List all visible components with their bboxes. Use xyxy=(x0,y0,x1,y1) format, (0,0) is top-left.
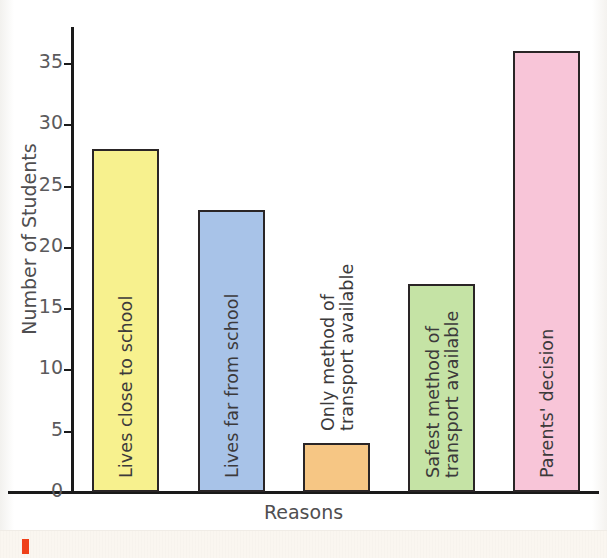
bar-label-line: transport available xyxy=(443,311,462,478)
red-mark xyxy=(22,539,29,554)
y-tick-label: 5 xyxy=(17,418,63,440)
y-tick-mark xyxy=(64,63,73,65)
y-tick-mark xyxy=(64,186,73,188)
y-tick-mark xyxy=(64,124,73,126)
bar-label-line: transport available xyxy=(338,264,357,431)
bar-label: Lives far from school xyxy=(223,293,243,478)
page-bottom-strip xyxy=(0,530,607,558)
y-tick-label: 10 xyxy=(17,356,63,378)
y-axis-title: Number of Students xyxy=(18,124,40,354)
bar-label: Only method oftransport available xyxy=(319,264,358,431)
bar-label-line: Lives close to school xyxy=(117,296,137,478)
y-tick-mark xyxy=(64,431,73,433)
y-tick-mark xyxy=(64,247,73,249)
chart-title xyxy=(0,0,607,2)
bar-label-line: Lives far from school xyxy=(223,293,243,478)
y-tick-mark xyxy=(64,369,73,371)
bar-label: Lives close to school xyxy=(117,296,137,478)
y-axis-line xyxy=(71,27,74,493)
bar-label-line: Parents' decision xyxy=(538,329,558,478)
bar-label-line: Only method of xyxy=(319,264,338,431)
bar[interactable] xyxy=(303,443,370,492)
bar-label-line: Safest method of xyxy=(424,311,443,478)
bar-chart: 35302520151050 Number of Students Reason… xyxy=(0,0,607,530)
y-tick-mark xyxy=(64,492,73,494)
bar-label: Parents' decision xyxy=(538,329,558,478)
y-tick-label: 0 xyxy=(17,479,63,501)
x-axis-title: Reasons xyxy=(0,501,607,523)
bar-label: Safest method oftransport available xyxy=(424,311,463,478)
y-tick-label: 35 xyxy=(17,50,63,72)
y-tick-mark xyxy=(64,308,73,310)
